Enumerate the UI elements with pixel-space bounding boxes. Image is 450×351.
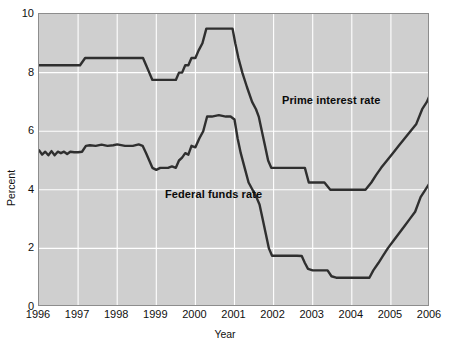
x-axis-tick-1999: 1999: [143, 308, 167, 320]
x-axis-tick-1998: 1998: [104, 308, 128, 320]
x-axis-tick-2004: 2004: [339, 308, 363, 320]
x-axis-tick-2006: 2006: [417, 308, 441, 320]
x-axis-tick-labels: 1996199719981999200020012002200320042005…: [0, 0, 450, 351]
x-axis-tick-1997: 1997: [65, 308, 89, 320]
x-axis-tick-2003: 2003: [299, 308, 323, 320]
x-axis-tick-2002: 2002: [260, 308, 284, 320]
x-axis-tick-2000: 2000: [182, 308, 206, 320]
y-axis-title: Percent: [5, 158, 17, 218]
x-axis-title: Year: [0, 328, 450, 340]
x-axis-tick-2001: 2001: [221, 308, 245, 320]
x-axis-tick-1996: 1996: [26, 308, 50, 320]
x-axis-tick-2005: 2005: [378, 308, 402, 320]
interest-rate-line-chart: Prime interest rate Federal funds rate 0…: [0, 0, 450, 351]
